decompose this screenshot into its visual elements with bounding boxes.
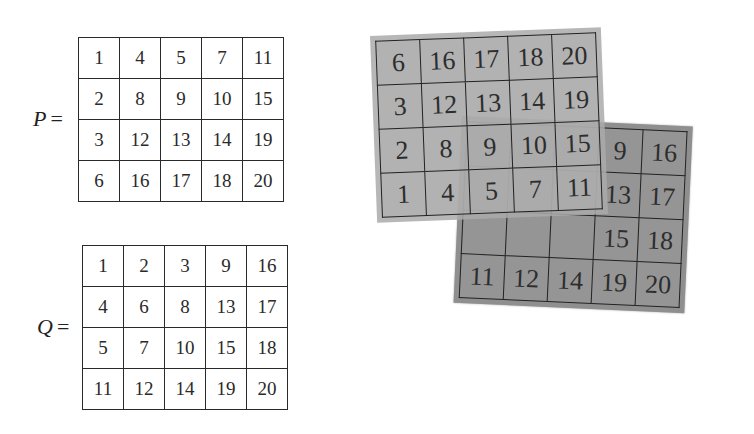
overlay-front-flipped-p-sheet: 6161718203121314192891015145711 (370, 27, 608, 223)
matrix-cell: 11 (557, 165, 603, 211)
matrix-cell: 20 (243, 161, 284, 202)
matrix-cell: 6 (79, 161, 120, 202)
table-row: 123916 (83, 246, 288, 287)
matrix-cell: 20 (635, 262, 681, 308)
matrix-cell: 18 (202, 161, 243, 202)
matrix-cell: 2 (79, 79, 120, 120)
matrix-cell: 11 (83, 369, 124, 410)
matrix-cell: 2 (124, 246, 165, 287)
matrix-cell: 4 (83, 287, 124, 328)
matrix-cell: 7 (202, 38, 243, 79)
matrix-cell: 10 (165, 328, 206, 369)
matrix-cell: 8 (165, 287, 206, 328)
table-row: 1112141920 (83, 369, 288, 410)
matrix-cell (549, 214, 595, 260)
matrix-cell: 16 (420, 38, 466, 84)
matrix-cell: 15 (243, 79, 284, 120)
matrix-cell (505, 212, 551, 258)
matrix-cell: 18 (637, 218, 683, 264)
table-row: 145711 (79, 38, 284, 79)
matrix-cell: 12 (124, 369, 165, 410)
matrix-cell: 16 (247, 246, 288, 287)
matrix-cell: 9 (161, 79, 202, 120)
matrix-cell: 3 (79, 120, 120, 161)
matrix-cell: 4 (425, 170, 471, 216)
matrix-cell: 12 (421, 82, 467, 128)
table-row: 312131419 (79, 120, 284, 161)
matrix-cell: 19 (591, 260, 637, 306)
matrix-cell: 20 (552, 33, 598, 79)
matrix-cell: 5 (161, 38, 202, 79)
matrix-cell: 16 (120, 161, 161, 202)
matrix-cell: 11 (459, 254, 505, 300)
overlay-front-table: 6161718203121314192891015145711 (375, 32, 603, 217)
matrix-cell: 7 (513, 166, 559, 212)
matrix-cell: 13 (161, 120, 202, 161)
matrix-cell: 19 (206, 369, 247, 410)
matrix-cell: 9 (206, 246, 247, 287)
matrix-cell: 16 (641, 130, 687, 176)
matrix-q-name: Q (37, 314, 53, 339)
matrix-cell: 4 (120, 38, 161, 79)
matrix-p-table: 1457112891015312131419616171820 (78, 37, 284, 202)
matrix-cell: 15 (555, 121, 601, 167)
matrix-cell: 9 (467, 124, 513, 170)
matrix-cell: 6 (124, 287, 165, 328)
matrix-cell: 11 (243, 38, 284, 79)
matrix-cell: 6 (376, 40, 422, 86)
table-row: 1112141920 (459, 254, 681, 308)
matrix-cell: 12 (120, 120, 161, 161)
table-row: 2891015 (79, 79, 284, 120)
matrix-cell: 13 (206, 287, 247, 328)
matrix-cell: 10 (202, 79, 243, 120)
matrix-cell: 10 (511, 122, 557, 168)
matrix-cell: 14 (547, 258, 593, 304)
matrix-cell: 13 (465, 80, 511, 126)
matrix-p-label: P= (33, 106, 63, 132)
matrix-cell: 8 (120, 79, 161, 120)
matrix-cell: 1 (79, 38, 120, 79)
table-row: 4681317 (83, 287, 288, 328)
matrix-cell: 15 (206, 328, 247, 369)
matrix-p-name: P (33, 106, 46, 131)
matrix-cell: 18 (247, 328, 288, 369)
matrix-cell: 8 (423, 126, 469, 172)
matrix-cell: 14 (202, 120, 243, 161)
matrix-cell: 3 (165, 246, 206, 287)
matrix-cell: 12 (503, 256, 549, 302)
matrix-cell: 15 (593, 216, 639, 262)
matrix-cell: 14 (165, 369, 206, 410)
matrix-cell: 3 (377, 84, 423, 130)
matrix-cell: 14 (509, 78, 555, 124)
matrix-cell: 17 (464, 36, 510, 82)
matrix-cell: 1 (381, 171, 427, 217)
equals-sign: = (57, 314, 69, 339)
matrix-cell: 17 (161, 161, 202, 202)
table-row: 616171820 (79, 161, 284, 202)
matrix-cell: 19 (553, 77, 599, 123)
matrix-cell: 19 (243, 120, 284, 161)
equals-sign: = (50, 106, 62, 131)
matrix-q-table: 1239164681317571015181112141920 (82, 245, 288, 410)
table-row: 145711 (381, 165, 603, 217)
matrix-cell: 17 (639, 174, 685, 220)
matrix-q-label: Q= (37, 314, 69, 340)
table-row: 57101518 (83, 328, 288, 369)
matrix-cell: 17 (247, 287, 288, 328)
matrix-cell: 18 (508, 35, 554, 81)
matrix-cell: 2 (379, 128, 425, 174)
matrix-cell: 1 (83, 246, 124, 287)
matrix-cell: 7 (124, 328, 165, 369)
matrix-cell: 20 (247, 369, 288, 410)
matrix-cell: 5 (469, 168, 515, 214)
matrix-cell: 5 (83, 328, 124, 369)
